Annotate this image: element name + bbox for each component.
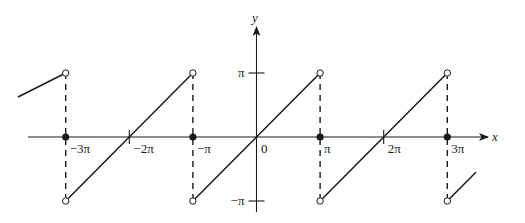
open-circle [62, 198, 68, 204]
open-circle [444, 70, 450, 76]
sawtooth-segment [447, 172, 476, 201]
x-tick-label: 3π [451, 141, 465, 156]
sawtooth-segment [18, 73, 66, 97]
x-axis-label: x [491, 129, 498, 144]
sawtooth-diagram: x y 0 −3π−2π−ππ2π3ππ−π [0, 0, 525, 223]
open-circle [317, 198, 323, 204]
x-tick-label: π [324, 141, 331, 156]
y-tick-label: π [238, 65, 245, 80]
filled-dot [317, 133, 324, 140]
filled-dot [189, 133, 196, 140]
open-circle [444, 198, 450, 204]
x-tick-label: −3π [70, 141, 91, 156]
open-circle [317, 70, 323, 76]
y-axis-label: y [250, 10, 258, 25]
open-circle [190, 70, 196, 76]
filled-dot [62, 133, 69, 140]
origin-label: 0 [261, 141, 268, 156]
x-tick-label: 2π [388, 141, 402, 156]
open-circle [190, 198, 196, 204]
y-tick-label: −π [231, 193, 245, 208]
x-tick-label: −π [197, 141, 211, 156]
x-tick-label: −2π [133, 141, 154, 156]
open-circle [62, 70, 68, 76]
filled-dot [444, 133, 451, 140]
